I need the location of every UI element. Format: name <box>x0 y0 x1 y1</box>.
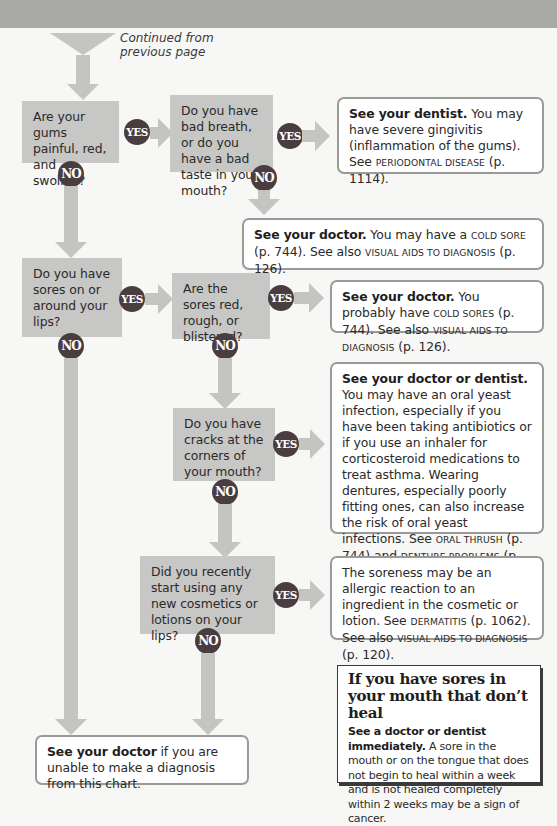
arrow-head-icon <box>55 719 87 735</box>
continued-line2: previous page <box>120 45 214 59</box>
continued-line1: Continued from <box>120 31 214 45</box>
yes-badge: YES <box>119 286 145 312</box>
warning-title: If you have sores in your mouth that don… <box>348 671 532 722</box>
no-badge: NO <box>251 165 277 191</box>
question-new-cosmetics: Did you recently start using any new cos… <box>140 556 275 634</box>
yes-badge: YES <box>273 431 299 457</box>
no-badge: NO <box>212 333 238 359</box>
arrow-head-icon <box>248 199 280 215</box>
warning-box-sores-dont-heal: If you have sores in your mouth that don… <box>337 665 541 783</box>
arrow-q4-no <box>218 358 232 394</box>
warning-body: See a doctor or dentist immediately. A s… <box>348 725 532 826</box>
question-cracks-corners: Do you have cracks at the corners of you… <box>173 408 275 481</box>
arrow-q2-yes <box>302 130 316 142</box>
result-see-dentist: See your dentist. You may have severe gi… <box>337 97 544 174</box>
result-cold-sores: See your doctor. You probably have cold … <box>330 280 544 333</box>
arrow-q5-no <box>218 504 232 544</box>
result-heading: See your doctor. <box>254 227 367 242</box>
no-badge: NO <box>212 479 238 505</box>
arrow-start-down <box>76 55 90 85</box>
result-cold-sore: See your doctor. You may have a cold sor… <box>242 218 544 270</box>
arrow-q3-no <box>64 358 78 720</box>
arrow-head-icon <box>309 283 324 313</box>
reference-cold-sore: cold sore <box>471 230 526 241</box>
start-triangle-icon <box>50 33 116 55</box>
reference-visual-aids: visual aids to diagnosis <box>397 633 527 644</box>
arrow-head-icon <box>310 429 325 459</box>
result-oral-yeast: See your doctor or dentist. You may have… <box>330 362 544 534</box>
question-text: Are the sores red, rough, or blistered? <box>183 281 243 344</box>
question-sores-lips: Do you have sores on or around your lips… <box>22 258 122 337</box>
arrow-head-icon <box>158 284 173 314</box>
yes-badge: YES <box>273 582 299 608</box>
no-badge: NO <box>58 161 84 187</box>
yes-badge: YES <box>124 119 150 145</box>
arrow-head-icon <box>315 121 330 151</box>
continued-note: Continued from previous page <box>120 31 214 59</box>
arrow-q4-yes <box>294 292 310 304</box>
result-allergic-reaction: The soreness may be an allergic reaction… <box>330 556 544 640</box>
reference-cold-sores: cold sores <box>433 308 494 319</box>
result-heading: See your doctor. <box>342 289 455 304</box>
result-heading: See your dentist. <box>349 106 467 121</box>
result-see-doctor-final: See your doctor if you are unable to mak… <box>35 735 249 785</box>
question-text: Do you have sores on or around your lips… <box>33 266 110 329</box>
arrow-head-icon <box>67 84 99 100</box>
reference-visual-aids: visual aids to diagnosis <box>365 247 495 258</box>
header-band <box>0 0 557 28</box>
reference-periodontal-disease: Periodontal disease <box>376 157 485 168</box>
yes-badge: YES <box>277 123 303 149</box>
reference-oral-thrush: oral thrush <box>436 534 503 545</box>
no-badge: NO <box>58 333 84 359</box>
arrow-q3-yes <box>145 293 159 305</box>
question-bad-breath: Do you have bad breath, or do you have a… <box>170 95 273 172</box>
arrow-head-icon <box>209 393 241 409</box>
question-text: Do you have cracks at the corners of you… <box>184 416 263 479</box>
arrow-head-icon <box>192 719 224 735</box>
no-badge: NO <box>195 628 221 654</box>
question-text: Do you have bad breath, or do you have a… <box>181 103 258 198</box>
arrow-q1-no <box>64 186 78 244</box>
arrow-q6-no <box>201 653 215 721</box>
result-heading: See your doctor or dentist. <box>342 371 528 386</box>
yes-badge: YES <box>268 285 294 311</box>
arrow-head-icon <box>55 242 87 258</box>
arrow-head-icon <box>310 580 325 610</box>
reference-dermatitis: dermatitis <box>411 616 467 627</box>
result-heading: See your doctor <box>47 744 157 759</box>
question-sores-red: Are the sores red, rough, or blistered? <box>172 273 270 339</box>
question-gums: Are your gums painful, red, and swollen? <box>22 101 119 163</box>
